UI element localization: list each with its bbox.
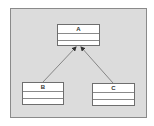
class-a-name: A — [58, 25, 99, 34]
class-a[interactable]: A — [57, 24, 100, 46]
class-a-attributes — [58, 34, 99, 41]
class-a-methods — [58, 41, 99, 47]
class-c-attributes — [93, 93, 134, 100]
class-b-methods — [23, 99, 63, 105]
edge-b-to-a — [43, 47, 76, 82]
relationship-lines — [0, 0, 154, 126]
class-b-attributes — [23, 92, 63, 99]
class-c[interactable]: C — [92, 83, 135, 106]
class-c-methods — [93, 100, 134, 106]
class-b[interactable]: B — [22, 82, 64, 105]
edge-c-to-a — [81, 47, 113, 83]
class-b-name: B — [23, 83, 63, 92]
class-c-name: C — [93, 84, 134, 93]
